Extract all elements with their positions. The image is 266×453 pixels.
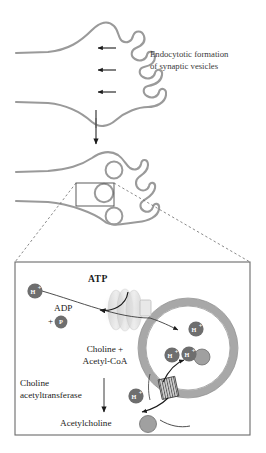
substrate-line1: Choline +	[62, 344, 148, 355]
phosphate-group: P	[55, 316, 68, 329]
proton-label: H	[192, 326, 197, 333]
top-nerve-terminal	[16, 23, 166, 128]
adp-plus-sign: +	[48, 316, 53, 327]
product-label: Acetylcholine	[60, 418, 112, 429]
acetylcholine-molecule-inside	[194, 349, 210, 365]
vesicle-bottom	[106, 208, 123, 225]
endocytosis-caption-line2: of synaptic vesicles	[150, 61, 218, 71]
enzyme-line1: Choline	[20, 378, 49, 389]
atp-label: ATP	[88, 273, 108, 284]
proton-charge: +	[38, 284, 42, 291]
proton-outside-lower-left: H +	[128, 388, 143, 403]
proton-inside-middle-right: H +	[181, 346, 196, 361]
vesicle-top	[106, 162, 123, 179]
acetylcholine-molecule-outside	[140, 416, 157, 433]
proton-charge: +	[175, 348, 179, 355]
vesicle-middle	[95, 184, 113, 202]
adp-label: ADP	[54, 303, 72, 314]
proton-inside-upper-right: H +	[188, 321, 203, 336]
figure-canvas: P H + H + H + H + H + Endocytotic f	[0, 0, 266, 453]
substrate-line2: Acetyl-CoA	[62, 356, 148, 367]
proton-charge: +	[192, 347, 196, 354]
phosphate-label: P	[59, 318, 63, 325]
proton-outside-upper-left: H +	[27, 283, 42, 298]
endocytosis-arrows	[98, 48, 116, 92]
proton-inside-middle-left: H +	[164, 347, 179, 362]
enzyme-line2: acetyltransferase	[20, 390, 82, 401]
proton-label: H	[185, 351, 190, 358]
pump-membrane-segment	[140, 300, 151, 316]
proton-label: H	[168, 352, 173, 359]
top-terminal-membrane	[16, 23, 166, 126]
proton-label: H	[31, 288, 36, 295]
middle-terminal-membrane	[16, 152, 159, 224]
proton-charge: +	[199, 322, 203, 329]
middle-nerve-terminal	[16, 152, 159, 224]
acetylcholine-transporter	[158, 376, 179, 399]
proton-label: H	[132, 393, 137, 400]
proton-charge: +	[139, 389, 143, 396]
endocytosis-caption-line1: Endocytotic formation	[150, 49, 228, 59]
